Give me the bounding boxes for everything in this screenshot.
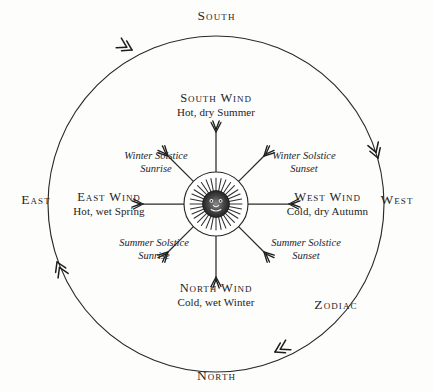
wind-subtitle-west: Cold, dry Autumn [265, 205, 390, 218]
ring-label-north: North [0, 368, 433, 384]
wind-title-south: South Wind [146, 91, 286, 106]
ring-label-south: South [0, 8, 433, 24]
solstice-summer-sunrise-line2: Sunrise [92, 249, 216, 262]
solstice-summer-sunrise-line1: Summer Solstice [92, 236, 216, 249]
wind-label-east: East Wind Hot, wet Spring [48, 190, 170, 218]
wind-label-north: North Wind Cold, wet Winter [146, 281, 286, 309]
solstice-winter-sunset-line2: Sunset [248, 162, 360, 175]
solstice-label-winter-sunset: Winter Solstice Sunset [248, 149, 360, 175]
ring-arrowhead-bottom [272, 340, 290, 357]
ring-label-zodiac: Zodiac [292, 297, 380, 313]
wind-title-west: West Wind [265, 190, 390, 205]
solstice-label-winter-sunrise: Winter Solstice Sunrise [96, 149, 216, 175]
wind-subtitle-north: Cold, wet Winter [146, 296, 286, 309]
wind-label-south: South Wind Hot, dry Summer [146, 91, 286, 119]
solstice-winter-sunset-line1: Winter Solstice [248, 149, 360, 162]
wind-title-north: North Wind [146, 281, 286, 296]
wind-label-west: West Wind Cold, dry Autumn [265, 190, 390, 218]
ring-arrowhead-top [116, 38, 134, 55]
solstice-summer-sunset-line2: Sunset [246, 249, 366, 262]
solstice-label-summer-sunrise: Summer Solstice Sunrise [92, 236, 216, 262]
wind-rose-diagram: South North East West Zodiac South Wind … [0, 0, 433, 392]
solstice-winter-sunrise-line1: Winter Solstice [96, 149, 216, 162]
wind-title-east: East Wind [48, 190, 170, 205]
wind-subtitle-south: Hot, dry Summer [146, 106, 286, 119]
solstice-winter-sunrise-line2: Sunrise [96, 162, 216, 175]
solstice-label-summer-sunset: Summer Solstice Sunset [246, 236, 366, 262]
sun-face-icon [190, 178, 242, 230]
wind-subtitle-east: Hot, wet Spring [48, 205, 170, 218]
solstice-summer-sunset-line1: Summer Solstice [246, 236, 366, 249]
ring-arrowhead-left [52, 260, 68, 278]
